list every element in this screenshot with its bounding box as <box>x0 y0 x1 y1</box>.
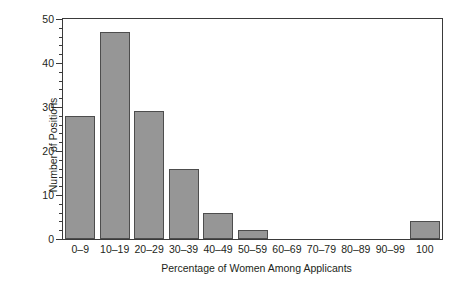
x-axis-tick-label: 40–49 <box>201 243 235 255</box>
bar <box>134 111 164 239</box>
x-axis-title: Percentage of Women Among Applicants <box>0 262 463 274</box>
x-axis-tick-label: 50–59 <box>235 243 269 255</box>
x-axis-tick-label: 90–99 <box>373 243 407 255</box>
x-axis-tick-labels: 0–910–1920–2930–3940–4950–5960–6970–7980… <box>63 243 442 257</box>
x-axis-tick-label: 100 <box>408 243 442 255</box>
x-axis-tick-label: 30–39 <box>166 243 200 255</box>
chart-figure: Number of Positions 01020304050 0–910–19… <box>0 0 463 289</box>
y-axis-tick-label: 50 <box>42 14 54 24</box>
bar <box>410 221 440 239</box>
bar-series <box>63 19 442 239</box>
bar <box>65 116 95 239</box>
bar <box>100 32 130 239</box>
bar <box>203 213 233 239</box>
x-axis-tick-label: 0–9 <box>63 243 97 255</box>
x-axis-tick-label: 80–89 <box>339 243 373 255</box>
x-axis-tick-label: 10–19 <box>97 243 131 255</box>
bar <box>169 169 199 239</box>
bar <box>238 230 268 239</box>
y-axis-title: Number of Positions <box>47 97 59 192</box>
y-axis-tick-label: 40 <box>42 58 54 68</box>
x-axis-tick-label: 60–69 <box>270 243 304 255</box>
x-axis-tick-label: 20–29 <box>132 243 166 255</box>
x-axis-tick-label: 70–79 <box>304 243 338 255</box>
y-axis-tick-label: 0 <box>48 234 54 244</box>
